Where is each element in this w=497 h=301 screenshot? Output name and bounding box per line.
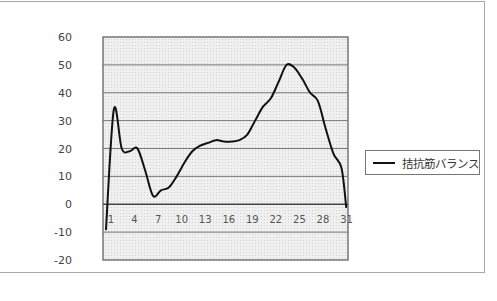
y-tick-label: -10 — [54, 226, 72, 239]
x-tick-label: 31 — [340, 214, 353, 225]
x-tick-label: 10 — [175, 214, 188, 225]
legend-line-swatch — [373, 162, 395, 164]
legend: 拮抗筋バランス — [365, 150, 480, 175]
x-tick-label: 4 — [131, 214, 137, 225]
y-axis-tick-labels: 6050403020100-10-20 — [54, 31, 72, 267]
y-tick-label: 30 — [58, 115, 72, 128]
y-tick-label: 60 — [58, 31, 72, 44]
y-tick-label: -20 — [54, 254, 72, 267]
y-tick-label: 0 — [65, 198, 72, 211]
x-tick-label: 1 — [108, 214, 114, 225]
x-tick-label: 13 — [199, 214, 212, 225]
y-tick-label: 40 — [58, 87, 72, 100]
x-tick-label: 25 — [293, 214, 306, 225]
x-tick-label: 22 — [269, 214, 282, 225]
y-tick-label: 50 — [58, 59, 72, 72]
legend-label: 拮抗筋バランス — [402, 155, 479, 171]
y-tick-label: 10 — [58, 170, 72, 183]
x-tick-label: 7 — [155, 214, 161, 225]
x-tick-label: 16 — [222, 214, 235, 225]
x-tick-label: 19 — [246, 214, 259, 225]
x-tick-label: 28 — [317, 214, 330, 225]
y-tick-label: 20 — [58, 143, 72, 156]
